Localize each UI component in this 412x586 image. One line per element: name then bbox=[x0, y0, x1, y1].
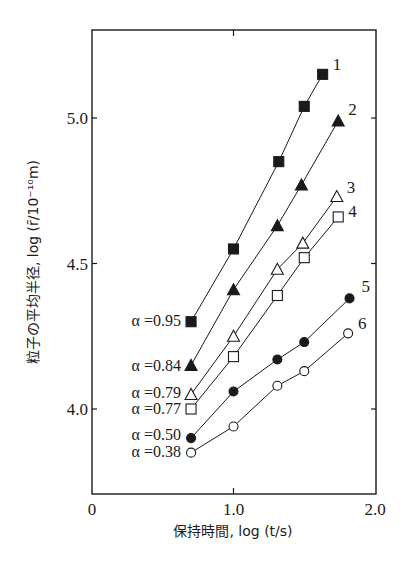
series-1-marker-square-icon bbox=[318, 69, 328, 79]
series-3-marker-triangle-icon bbox=[185, 388, 197, 399]
series-number-label: 1 bbox=[333, 55, 342, 74]
series-2-marker-triangle-icon bbox=[185, 359, 197, 370]
series-1-marker-square-icon bbox=[274, 157, 284, 167]
series-4-marker-square-icon bbox=[299, 253, 309, 263]
series-4-line bbox=[191, 217, 338, 409]
series-number-label: 5 bbox=[362, 277, 371, 296]
series-1-marker-square-icon bbox=[229, 244, 239, 254]
series-4-marker-square-icon bbox=[333, 212, 343, 222]
series-6-marker-circle-icon bbox=[273, 381, 282, 390]
alpha-label: α =0.50 bbox=[132, 426, 181, 443]
y-tick-label: 4.5 bbox=[67, 255, 88, 274]
series-4-marker-square-icon bbox=[229, 352, 239, 362]
series-2-marker-triangle-icon bbox=[332, 115, 344, 126]
series-markers bbox=[185, 69, 354, 457]
y-tick-label: 4.0 bbox=[67, 400, 88, 419]
alpha-label: α =0.77 bbox=[132, 400, 181, 417]
series-5-marker-circle-icon bbox=[229, 387, 238, 396]
series-6-marker-circle-icon bbox=[300, 367, 309, 376]
series-5-marker-circle-icon bbox=[300, 338, 309, 347]
series-5-marker-circle-icon bbox=[345, 294, 354, 303]
series-6-marker-circle-icon bbox=[229, 422, 238, 431]
alpha-label: α =0.95 bbox=[132, 312, 181, 329]
series-number-label: 2 bbox=[348, 100, 357, 119]
y-axis-ticks: 4.04.55.0 bbox=[67, 109, 376, 419]
series-6-marker-circle-icon bbox=[344, 329, 353, 338]
series-3-marker-triangle-icon bbox=[297, 237, 309, 248]
series-2-marker-triangle-icon bbox=[228, 284, 240, 295]
series-5-line bbox=[191, 298, 349, 438]
series-1-marker-square-icon bbox=[299, 101, 309, 111]
series-2-marker-triangle-icon bbox=[271, 220, 283, 231]
series-4-marker-square-icon bbox=[186, 404, 196, 414]
series-6-marker-circle-icon bbox=[187, 448, 196, 457]
alpha-label: α =0.84 bbox=[132, 357, 181, 374]
x-tick-label: 2.0 bbox=[364, 500, 385, 519]
series-5-marker-circle-icon bbox=[187, 434, 196, 443]
series-3-marker-triangle-icon bbox=[331, 191, 343, 202]
series-number-label: 3 bbox=[347, 178, 356, 197]
alpha-label: α =0.79 bbox=[132, 384, 181, 401]
series-number-label: 4 bbox=[348, 202, 357, 221]
series-number-label: 6 bbox=[358, 314, 367, 333]
series-lines bbox=[191, 74, 349, 452]
series-3-marker-triangle-icon bbox=[228, 330, 240, 341]
x-axis-title: 保持時間, log (t/s) bbox=[173, 523, 292, 539]
y-tick-label: 5.0 bbox=[67, 109, 88, 128]
chart: 01.02.0 4.04.55.0 1α =0.952α =0.843α =0.… bbox=[0, 0, 412, 586]
alpha-label: α =0.38 bbox=[132, 443, 181, 460]
series-labels: 1α =0.952α =0.843α =0.794α =0.775α =0.50… bbox=[132, 55, 370, 460]
series-1-marker-square-icon bbox=[186, 317, 196, 327]
y-axis-title: 粒子の平均半径, log (r̄/10⁻¹⁰m) bbox=[25, 160, 41, 364]
series-6-line bbox=[191, 333, 348, 452]
x-tick-label: 1.0 bbox=[223, 500, 244, 519]
series-5-marker-circle-icon bbox=[273, 355, 282, 364]
series-3-line bbox=[191, 197, 337, 395]
x-tick-label: 0 bbox=[88, 500, 97, 519]
series-2-marker-triangle-icon bbox=[295, 179, 307, 190]
series-4-marker-square-icon bbox=[272, 291, 282, 301]
